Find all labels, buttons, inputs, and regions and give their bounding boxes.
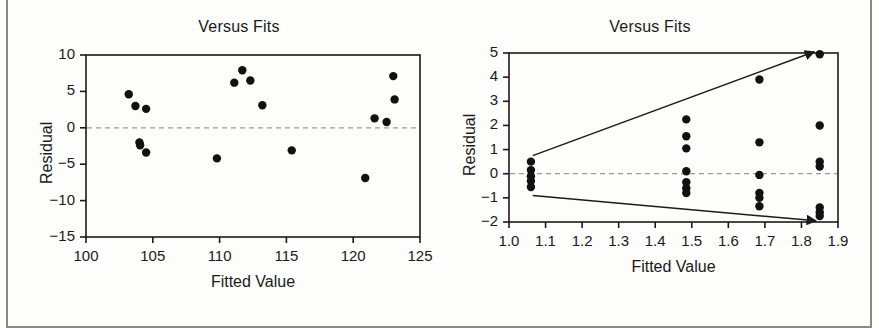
data-point: [816, 212, 824, 220]
y-tick-label: 5: [438, 43, 498, 60]
data-point: [230, 78, 238, 86]
plot-frame: [509, 53, 838, 222]
y-tick-label: 4: [438, 67, 498, 84]
scatter-plot-left: [18, 0, 448, 328]
data-point: [238, 66, 246, 74]
data-point-group: [527, 50, 824, 220]
y-tick-label: 3: [438, 91, 498, 108]
upper-funnel-arrow: [533, 52, 814, 156]
data-point: [390, 95, 398, 103]
data-point: [755, 138, 763, 146]
data-point: [131, 102, 139, 110]
data-point: [682, 189, 690, 197]
data-point: [246, 76, 254, 84]
x-tick-label: 1.9: [808, 232, 868, 249]
y-tick-label: −1: [438, 188, 498, 205]
data-point-group: [125, 66, 399, 182]
data-point: [682, 132, 690, 140]
data-point: [682, 115, 690, 123]
data-point: [816, 121, 824, 129]
y-tick-label: 10: [15, 45, 75, 62]
chart-panel-right: Versus Fits Residual Fitted Value 543210…: [448, 0, 868, 328]
screenshot-page: Versus Fits Residual Fitted Value 1050−5…: [0, 0, 879, 328]
data-point: [755, 171, 763, 179]
data-point: [755, 75, 763, 83]
data-point: [258, 101, 266, 109]
y-tick-label: 0: [438, 164, 498, 181]
data-point: [755, 202, 763, 210]
x-tick-label: 125: [390, 247, 450, 264]
lower-funnel-arrow: [533, 195, 816, 220]
y-tick-label: 5: [15, 81, 75, 98]
y-tick-label: 1: [438, 140, 498, 157]
y-tick-label: −15: [15, 227, 75, 244]
data-point: [527, 157, 535, 165]
y-tick-label: −10: [15, 191, 75, 208]
data-point: [370, 114, 378, 122]
data-point: [142, 148, 150, 156]
data-point: [755, 194, 763, 202]
y-tick-label: 2: [438, 115, 498, 132]
x-tick-label: 115: [256, 247, 316, 264]
data-point: [136, 141, 144, 149]
data-point: [125, 90, 133, 98]
data-point: [213, 154, 221, 162]
data-point: [816, 162, 824, 170]
data-point: [389, 72, 397, 80]
x-tick-label: 110: [190, 247, 250, 264]
y-tick-label: −5: [15, 154, 75, 171]
data-point: [288, 146, 296, 154]
data-point: [527, 183, 535, 191]
data-point: [382, 118, 390, 126]
chart-panel-left: Versus Fits Residual Fitted Value 1050−5…: [18, 0, 448, 328]
x-tick-label: 105: [123, 247, 183, 264]
x-tick-label: 100: [56, 247, 116, 264]
data-point: [816, 50, 824, 58]
scatter-plot-right: [448, 0, 868, 328]
x-tick-label: 120: [323, 247, 383, 264]
data-point: [361, 174, 369, 182]
data-point: [682, 167, 690, 175]
data-point: [682, 144, 690, 152]
data-point: [142, 105, 150, 113]
y-tick-label: −2: [438, 212, 498, 229]
y-tick-label: 0: [15, 118, 75, 135]
